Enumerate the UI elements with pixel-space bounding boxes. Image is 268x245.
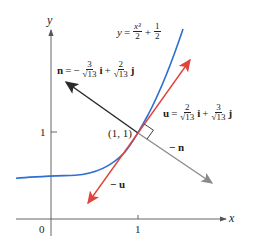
eq-lhs: y (117, 27, 122, 38)
x-axis-label: x (229, 212, 234, 224)
eq-equals: = (124, 27, 130, 38)
eq-term2: 1 2 (154, 22, 161, 42)
cubic-curve (16, 29, 183, 178)
n-vector (66, 82, 138, 133)
x-axis (16, 215, 226, 219)
u-vector-label: u = 2 √13 i + 3 √13 j (163, 103, 232, 123)
point-label: (1, 1) (108, 128, 132, 139)
diagram-canvas: y x 0 1 1 (1, 1) y = x³ 2 + 1 2 n = − 3 … (0, 0, 268, 245)
origin-label: 0 (39, 224, 45, 235)
eq-plus: + (145, 27, 151, 38)
n-vector-label: n = − 3 √13 i + 2 √13 j (57, 60, 134, 80)
eq-term1: x³ 2 (133, 22, 142, 42)
curve-equation: y = x³ 2 + 1 2 (117, 22, 162, 42)
neg-u-label: − u (110, 179, 125, 190)
neg-n-label: − n (169, 142, 184, 153)
right-angle-marker (144, 124, 153, 139)
neg-u-vector (88, 133, 138, 203)
y-tick-label: 1 (40, 127, 46, 138)
x-tick-label: 1 (135, 224, 141, 235)
y-axis-label: y (47, 14, 52, 26)
